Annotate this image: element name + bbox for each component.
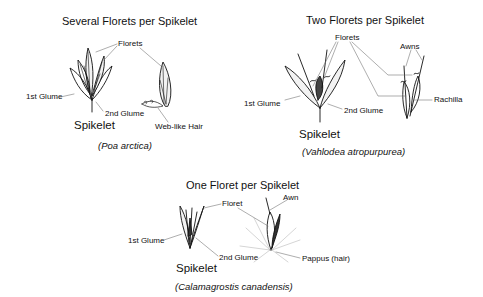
vahlodea-spikelet-drawing [285,50,345,122]
poa-spikelet-drawing [70,48,112,112]
vahlodea-florets-drawing [401,56,424,118]
spikelet-illustrations [0,0,483,297]
poa-floret-drawing [142,62,171,107]
calamagrostis-floret-drawing [240,198,300,262]
